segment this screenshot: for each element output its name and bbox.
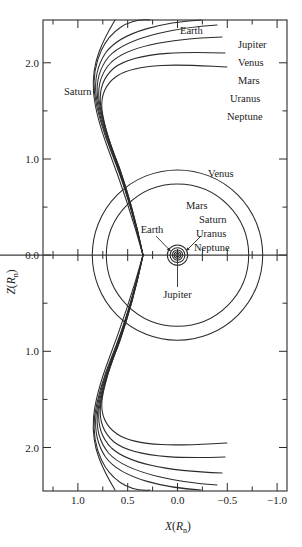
y-axis-title: Z(Rn) xyxy=(5,269,20,294)
leader-earth xyxy=(156,236,171,251)
y-tick-label-4: 1.0 xyxy=(25,345,39,357)
trace-label-mars: Mars xyxy=(238,75,260,86)
trace-neptune-lower xyxy=(102,255,227,445)
y-axis-title-paren-close: ) xyxy=(5,269,18,273)
y-tick-label-5: 2.0 xyxy=(25,442,39,454)
center-label-jupiter: Jupiter xyxy=(163,289,192,300)
x-tick-label-4: −0.5 xyxy=(217,494,237,506)
trace-label-jupiter: Jupiter xyxy=(238,39,267,50)
x-tick-label-5: −1.0 xyxy=(267,494,287,506)
x-axis-title: X(Rn) xyxy=(164,520,191,535)
circle-label-mars: Mars xyxy=(186,200,208,211)
trace-uranus-lower xyxy=(100,255,225,458)
trace-label-uranus: Uranus xyxy=(230,93,260,104)
trace-mars-lower xyxy=(99,255,222,473)
x-axis-ticks-bottom xyxy=(53,483,277,491)
trace-label-venus: Venus xyxy=(238,57,264,68)
y-tick-label-2: 1.0 xyxy=(25,153,39,165)
circle-label-venus: Venus xyxy=(208,168,234,179)
center-label-earth: Earth xyxy=(141,224,164,235)
figure-page: 1.0 0.5 0.0 −0.5 −1.0 2.0 1.0 0.0 1.0 2.… xyxy=(0,0,302,547)
x-tick-label-2: 0.5 xyxy=(121,494,135,506)
x-tick-label-3: 0.0 xyxy=(171,494,185,506)
y-axis-title-R: R xyxy=(5,277,17,285)
center-label-uranus: Uranus xyxy=(196,228,226,239)
trace-label-neptune: Neptune xyxy=(227,111,263,122)
y-tick-label-1: 2.0 xyxy=(25,57,39,69)
trace-label-saturn: Saturn xyxy=(64,86,92,97)
center-label-saturn: Saturn xyxy=(199,214,227,225)
x-axis-title-paren-close: ) xyxy=(187,520,191,533)
x-tick-label-1: 1.0 xyxy=(71,494,85,506)
trace-label-earth: Earth xyxy=(180,25,203,36)
x-axis-title-R: R xyxy=(175,520,183,532)
magnetopause-traces-lower xyxy=(93,255,227,490)
y-tick-label-3: 0.0 xyxy=(25,249,39,261)
trace-saturn-lower xyxy=(93,255,143,490)
center-label-neptune: Neptune xyxy=(194,242,230,253)
trace-neptune-upper xyxy=(102,65,227,255)
trace-saturn-upper xyxy=(93,20,143,255)
planetary-magnetopause-figure: 1.0 0.5 0.0 −0.5 −1.0 2.0 1.0 0.0 1.0 2.… xyxy=(0,0,302,547)
